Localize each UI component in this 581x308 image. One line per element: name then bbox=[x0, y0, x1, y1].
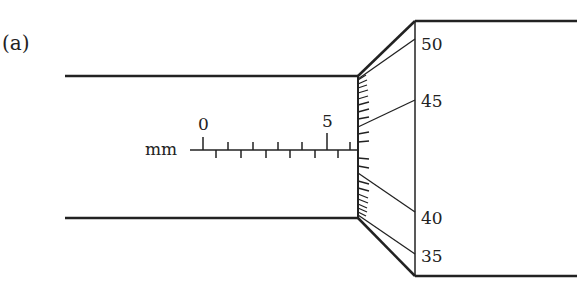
thimble-line-45 bbox=[358, 100, 415, 127]
main-scale bbox=[190, 133, 358, 158]
thimble-upper-bevel bbox=[358, 21, 415, 76]
thimble-lower-bevel bbox=[358, 218, 415, 276]
main-scale-label-0: 0 bbox=[198, 114, 209, 134]
sleeve bbox=[65, 76, 358, 218]
thimble-line-50 bbox=[358, 39, 415, 79]
thimble-label-40: 40 bbox=[421, 208, 443, 228]
part-label: (a) bbox=[2, 31, 30, 55]
thimble-scale-ticks bbox=[358, 75, 369, 216]
unit-label: mm bbox=[145, 139, 177, 159]
main-scale-label-5: 5 bbox=[322, 111, 333, 131]
thimble-label-45: 45 bbox=[421, 91, 443, 111]
thimble-line-40 bbox=[358, 173, 415, 212]
thimble-label-50: 50 bbox=[421, 34, 443, 54]
thimble-label-35: 35 bbox=[421, 246, 443, 266]
thimble-major-lines bbox=[358, 39, 415, 254]
micrometer-diagram: (a) bbox=[0, 0, 581, 308]
